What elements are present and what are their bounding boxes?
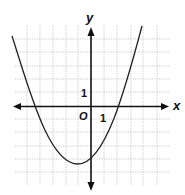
- x-axis-label: x: [173, 99, 180, 112]
- origin-label: O: [79, 111, 88, 122]
- grid: [15, 25, 170, 185]
- y-axis-label: y: [86, 11, 93, 24]
- coordinate-plane: [0, 0, 185, 195]
- x-axis-left-arrow-icon: [13, 103, 21, 110]
- y-tick-label: 1: [81, 88, 87, 99]
- y-axis: [88, 27, 95, 191]
- x-tick-label: 1: [100, 113, 106, 124]
- parabola-curve: [12, 26, 142, 164]
- y-axis-down-arrow-icon: [88, 182, 95, 191]
- x-axis-right-arrow-icon: [161, 103, 169, 110]
- y-axis-up-arrow-icon: [88, 27, 95, 36]
